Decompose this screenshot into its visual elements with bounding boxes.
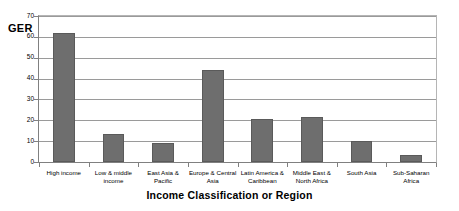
bar: [202, 70, 224, 162]
x-category-label-line: Africa: [382, 177, 440, 185]
y-tick-label: 50: [27, 54, 34, 61]
bar: [152, 143, 174, 162]
bar: [251, 119, 273, 162]
y-tick-label: 40: [27, 75, 34, 82]
plot-area: [38, 15, 437, 163]
bar: [301, 117, 323, 162]
x-tick-mark: [238, 163, 239, 167]
x-tick-mark: [337, 163, 338, 167]
x-category-label-line: Sub-Saharan: [382, 169, 440, 177]
bar: [400, 155, 422, 162]
x-category-label: Sub-SaharanAfrica: [382, 169, 440, 185]
x-tick-mark: [436, 163, 437, 167]
bar-chart: GER 010203040506070 High incomeLow & mid…: [0, 0, 459, 211]
y-tick-label: 30: [27, 96, 34, 103]
y-tick-label: 10: [27, 138, 34, 145]
x-tick-mark: [287, 163, 288, 167]
y-tick-label: 60: [27, 33, 34, 40]
y-tick-label: 70: [27, 13, 34, 20]
bar: [103, 134, 125, 162]
bars-layer: [39, 16, 436, 162]
x-tick-mark: [386, 163, 387, 167]
x-axis-title: Income Classification or Region: [0, 189, 459, 201]
x-tick-mark: [188, 163, 189, 167]
x-category-label-line: North Africa: [283, 177, 341, 185]
x-tick-mark: [89, 163, 90, 167]
x-tick-mark: [39, 163, 40, 167]
x-tick-mark: [138, 163, 139, 167]
y-tick-label: 20: [27, 117, 34, 124]
bar: [53, 33, 75, 162]
bar: [351, 141, 373, 162]
